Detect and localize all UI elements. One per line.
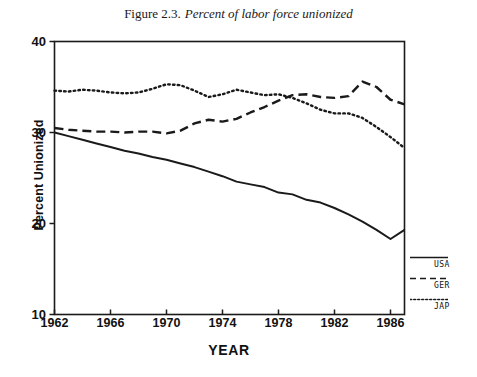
y-tick-label: 20 (12, 216, 46, 231)
x-axis-title: YEAR (54, 342, 404, 358)
legend-item-ger: GER (410, 273, 474, 294)
legend-swatch-solid (410, 256, 448, 259)
legend-item-jap: JAP (410, 294, 474, 315)
x-tick-label: 1986 (365, 316, 417, 330)
x-tick-label: 1966 (85, 316, 137, 330)
figure-container: Figure 2.3.Percent of labor force unioni… (0, 0, 477, 377)
legend-label: JAP (434, 302, 474, 311)
data-series-layer (55, 82, 405, 239)
legend-label: GER (434, 281, 474, 290)
x-tick-label: 1974 (197, 316, 249, 330)
y-tick-label: 30 (12, 125, 46, 140)
chart-legend: USAGERJAP (410, 252, 474, 315)
legend-swatch-dotted (410, 298, 448, 301)
legend-swatch-dashed (410, 277, 448, 280)
x-tick-label: 1962 (29, 316, 81, 330)
legend-label: USA (434, 260, 474, 269)
x-tick-label: 1982 (309, 316, 361, 330)
series-line-jap (55, 84, 405, 148)
y-tick-label: 40 (12, 34, 46, 49)
x-tick-label: 1978 (253, 316, 305, 330)
legend-item-usa: USA (410, 252, 474, 273)
series-line-usa (55, 133, 405, 239)
series-line-ger (55, 82, 405, 134)
x-tick-label: 1970 (141, 316, 193, 330)
